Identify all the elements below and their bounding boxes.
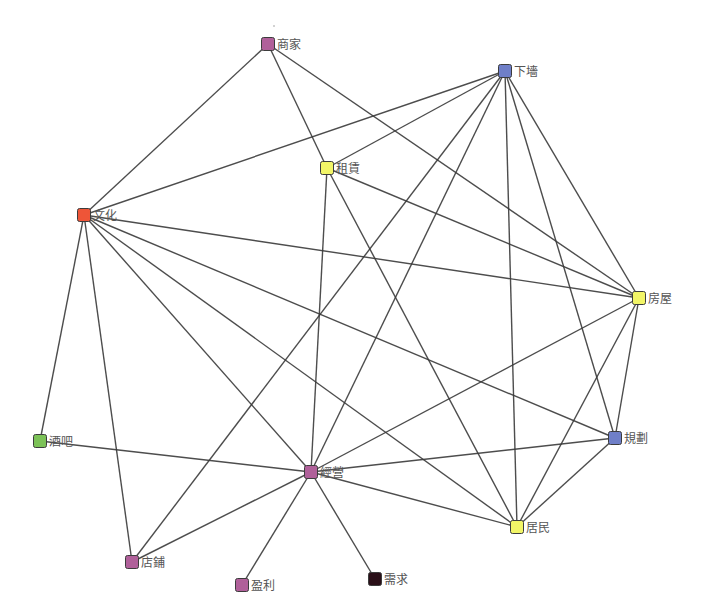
node-label: 文化 xyxy=(93,208,117,223)
edge-xiaqiang-guihua xyxy=(505,71,615,438)
edge-jingying-jiuba xyxy=(40,441,311,472)
node-square-icon[interactable] xyxy=(305,466,318,479)
node-wenhua[interactable]: 文化 xyxy=(78,208,117,223)
node-label: 下墻 xyxy=(514,65,538,79)
node-label: 商家 xyxy=(277,37,301,52)
node-label: 盈利 xyxy=(251,579,275,593)
edge-xiaqiang-zulin xyxy=(327,71,505,168)
edge-guihua-jumin xyxy=(517,438,615,527)
edge-wenhua-guihua xyxy=(84,215,615,438)
node-xuqiu[interactable]: 需求 xyxy=(369,573,408,588)
node-square-icon[interactable] xyxy=(633,292,646,305)
node-jiuba[interactable]: 酒吧 xyxy=(34,435,73,450)
node-label: 規劃 xyxy=(624,431,648,446)
edge-wenhua-fangwu xyxy=(84,215,639,298)
node-label: 租賃 xyxy=(336,161,360,176)
edge-jingying-jumin xyxy=(311,472,517,527)
node-square-icon[interactable] xyxy=(262,38,275,51)
node-label: 居民 xyxy=(526,521,550,535)
node-fangwu[interactable]: 房屋 xyxy=(633,291,672,306)
edge-wenhua-jiuba xyxy=(40,215,84,441)
node-xiaqiang[interactable]: 下墻 xyxy=(499,65,538,80)
edge-shangjia-wenhua xyxy=(84,44,268,215)
edge-fangwu-jingying xyxy=(311,298,639,472)
edge-wenhua-jingying xyxy=(84,215,311,472)
node-square-icon[interactable] xyxy=(499,65,512,78)
node-label: 需求 xyxy=(384,573,408,587)
node-square-icon[interactable] xyxy=(369,573,382,586)
edge-xiaqiang-wenhua xyxy=(84,71,505,215)
node-label: 房屋 xyxy=(648,291,672,306)
node-jingying[interactable]: 經營 xyxy=(305,466,344,481)
node-square-icon[interactable] xyxy=(511,521,524,534)
edge-wenhua-jumin xyxy=(84,215,517,527)
node-shangjia[interactable]: 商家 xyxy=(262,37,301,52)
node-square-icon[interactable] xyxy=(34,435,47,448)
edge-xiaqiang-fangwu xyxy=(505,71,639,298)
edge-wenhua-dianpu xyxy=(84,215,132,562)
node-square-icon[interactable] xyxy=(126,556,139,569)
edge-guihua-jingying xyxy=(311,438,615,472)
network-graph: 商家下墻租賃文化房屋酒吧規劃經營居民店鋪盈利需求 xyxy=(0,0,706,616)
edge-zulin-jingying xyxy=(311,168,327,472)
node-label: 店鋪 xyxy=(141,555,165,570)
edge-jingying-xuqiu xyxy=(311,472,375,579)
node-label: 酒吧 xyxy=(49,435,73,449)
edge-zulin-fangwu xyxy=(327,168,639,298)
node-label: 經營 xyxy=(320,466,344,480)
edge-fangwu-jumin xyxy=(517,298,639,527)
node-guihua[interactable]: 規劃 xyxy=(609,431,648,446)
edge-xiaqiang-jingying xyxy=(311,71,505,472)
edge-zulin-jumin xyxy=(327,168,517,527)
node-square-icon[interactable] xyxy=(609,432,622,445)
node-zulin[interactable]: 租賃 xyxy=(321,161,360,176)
node-jumin[interactable]: 居民 xyxy=(511,521,550,536)
node-square-icon[interactable] xyxy=(236,579,249,592)
stray-dot xyxy=(273,25,275,27)
node-square-icon[interactable] xyxy=(78,209,91,222)
node-square-icon[interactable] xyxy=(321,162,334,175)
node-dianpu[interactable]: 店鋪 xyxy=(126,555,165,570)
edge-layer xyxy=(40,44,639,585)
node-yingli[interactable]: 盈利 xyxy=(236,579,275,594)
edge-fangwu-guihua xyxy=(615,298,639,438)
edge-xiaqiang-jumin xyxy=(505,71,517,527)
node-layer: 商家下墻租賃文化房屋酒吧規劃經營居民店鋪盈利需求 xyxy=(34,37,672,593)
